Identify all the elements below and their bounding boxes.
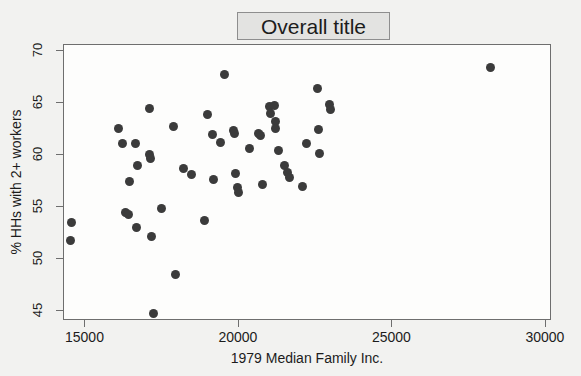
scatter-point: [302, 139, 311, 148]
scatter-point: [179, 164, 188, 173]
scatter-point: [200, 216, 209, 225]
y-axis-tick-mark: [56, 50, 63, 51]
x-axis-tick-mark: [84, 320, 85, 327]
y-axis-tick-label-text: 65: [31, 86, 45, 118]
y-axis-tick-label: 70: [22, 43, 54, 57]
scatter-point: [326, 105, 335, 114]
scatter-point: [133, 161, 142, 170]
scatter-point: [209, 175, 218, 184]
scatter-point: [230, 129, 239, 138]
scatter-point: [271, 124, 280, 133]
chart-title: Overall title: [261, 16, 366, 37]
y-axis-title-label: % HHs with 2+ workers: [8, 109, 24, 254]
plot-area: [63, 44, 551, 320]
y-axis-tick-mark: [56, 154, 63, 155]
scatter-point: [124, 210, 133, 219]
scatter-point: [258, 180, 267, 189]
y-axis-tick-mark: [56, 258, 63, 259]
scatter-point: [256, 131, 265, 140]
scatter-point: [274, 146, 283, 155]
y-axis-tick-label-text: 45: [31, 294, 45, 326]
scatter-point: [146, 154, 155, 163]
x-axis-title: 1979 Median Family Inc.: [63, 350, 551, 366]
scatter-point: [132, 223, 141, 232]
x-axis-tick-label: 30000: [525, 329, 564, 345]
y-axis-tick-label-text: 70: [31, 34, 45, 66]
scatter-point: [234, 188, 243, 197]
x-axis-tick-label: 25000: [372, 329, 411, 345]
x-axis-tick-label: 15000: [65, 329, 104, 345]
y-axis-tick-label: 60: [22, 147, 54, 161]
y-axis-tick-mark: [56, 310, 63, 311]
scatter-point: [114, 124, 123, 133]
y-axis-tick-label: 50: [22, 251, 54, 265]
scatter-point: [131, 139, 140, 148]
scatter-point: [203, 110, 212, 119]
x-axis-tick-label: 20000: [218, 329, 257, 345]
scatter-point: [231, 169, 240, 178]
scatter-point: [208, 130, 217, 139]
scatter-point: [314, 125, 323, 134]
scatter-point: [67, 218, 76, 227]
scatter-point: [169, 122, 178, 131]
scatter-point: [298, 182, 307, 191]
scatter-point: [125, 177, 134, 186]
y-axis-tick-label: 55: [22, 199, 54, 213]
y-axis-tick-label-text: 55: [31, 190, 45, 222]
x-axis-tick-mark: [238, 320, 239, 327]
scatter-point: [157, 204, 166, 213]
x-axis-tick-mark: [545, 320, 546, 327]
scatter-point: [315, 149, 324, 158]
y-axis-tick-label-text: 50: [31, 242, 45, 274]
y-axis-tick-label: 65: [22, 95, 54, 109]
y-axis-tick-label: 45: [22, 303, 54, 317]
y-axis-tick-mark: [56, 102, 63, 103]
scatter-point: [147, 232, 156, 241]
scatter-point: [171, 270, 180, 279]
chart-title-box: Overall title: [237, 12, 390, 40]
scatter-point: [216, 138, 225, 147]
scatter-point: [149, 309, 158, 318]
scatter-point: [118, 139, 127, 148]
x-axis-tick-mark: [391, 320, 392, 327]
scatter-point: [220, 70, 229, 79]
scatter-point: [187, 170, 196, 179]
figure-canvas: Overall title % HHs with 2+ workers 4550…: [0, 0, 581, 376]
y-axis-title: % HHs with 2+ workers: [6, 44, 26, 320]
y-axis-tick-mark: [56, 206, 63, 207]
scatter-point: [270, 101, 279, 110]
scatter-point: [313, 84, 322, 93]
scatter-point: [285, 173, 294, 182]
scatter-point: [66, 236, 75, 245]
y-axis-tick-label-text: 60: [31, 138, 45, 170]
scatter-point: [486, 63, 495, 72]
scatter-point: [245, 144, 254, 153]
scatter-point: [145, 104, 154, 113]
